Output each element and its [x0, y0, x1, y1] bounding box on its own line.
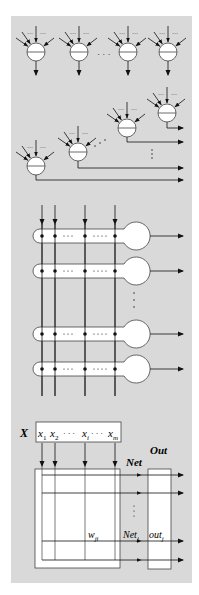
- dot: [101, 235, 102, 236]
- dot: [97, 333, 98, 334]
- dot: [97, 270, 98, 271]
- input-dots: ···: [131, 107, 137, 113]
- neuron-ellipsis: · · ·: [97, 49, 111, 59]
- dot: [67, 235, 68, 236]
- dot: [71, 333, 72, 334]
- diagram-canvas: ························ · · · ·········…: [0, 0, 199, 595]
- input-dots-1: · · ·: [63, 429, 75, 438]
- input-dots: ···: [158, 92, 164, 98]
- dot: [133, 505, 134, 506]
- weight-matrix-box: [35, 469, 120, 568]
- dot: [105, 235, 106, 236]
- input-dots: ···: [132, 31, 138, 37]
- dot: [67, 333, 68, 334]
- dot: [101, 270, 102, 271]
- dot: [105, 270, 106, 271]
- dot: [93, 235, 94, 236]
- net-label: Net: [125, 456, 143, 468]
- input-dots: ···: [119, 31, 125, 37]
- dot: [97, 368, 98, 369]
- dot: [67, 368, 68, 369]
- dot: [104, 139, 105, 140]
- input-vector-label: X: [19, 426, 29, 440]
- dot: [67, 270, 68, 271]
- input-dots: ···: [172, 31, 178, 37]
- input-dots: ···: [118, 107, 124, 113]
- dot: [101, 333, 102, 334]
- input-dots: ···: [171, 92, 177, 98]
- dot: [151, 149, 152, 150]
- input-dots: ···: [27, 145, 33, 151]
- input-dots: ···: [27, 31, 33, 37]
- dot: [63, 368, 64, 369]
- dot: [71, 235, 72, 236]
- input-dots: ···: [40, 145, 46, 151]
- input-dots: ···: [159, 31, 165, 37]
- dot: [133, 510, 134, 511]
- dot: [133, 515, 134, 516]
- dot: [105, 333, 106, 334]
- dot: [151, 157, 152, 158]
- dot: [133, 306, 134, 307]
- dot: [133, 299, 134, 300]
- input-dots-2: · · ·: [91, 429, 103, 438]
- input-dots: ···: [69, 131, 75, 137]
- input-dots: ···: [82, 131, 88, 137]
- input-dots: ···: [40, 31, 46, 37]
- output-box: [148, 469, 171, 569]
- dot: [71, 270, 72, 271]
- dot: [99, 142, 100, 143]
- dot: [63, 333, 64, 334]
- dot: [93, 368, 94, 369]
- input-dots: ···: [70, 31, 76, 37]
- dot: [97, 235, 98, 236]
- out-label: Out: [150, 444, 168, 456]
- dot: [101, 368, 102, 369]
- dot: [105, 368, 106, 369]
- input-dots: ···: [83, 31, 89, 37]
- dot: [71, 368, 72, 369]
- dot: [63, 235, 64, 236]
- dot: [93, 333, 94, 334]
- dot: [63, 270, 64, 271]
- dot: [93, 270, 94, 271]
- dot: [133, 292, 134, 293]
- dot: [94, 145, 95, 146]
- dot: [151, 153, 152, 154]
